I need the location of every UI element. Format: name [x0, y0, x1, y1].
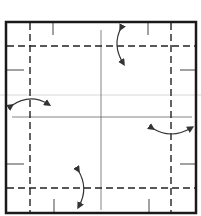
- fold-diagram: [0, 0, 201, 216]
